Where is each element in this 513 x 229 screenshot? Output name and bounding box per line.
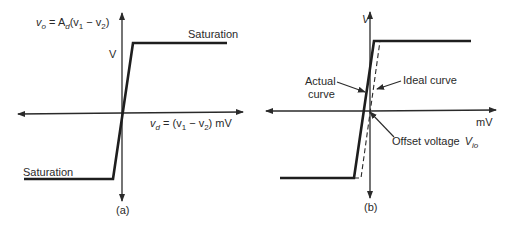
caption-b: (b) [364, 201, 377, 213]
diagram-canvas: vo = Ad(v1 − v2) Saturation V vd = (v1 −… [0, 0, 513, 229]
lower-saturation-label: Saturation [23, 166, 73, 178]
y-unit-label-a: V [109, 48, 117, 60]
x-axis-label-a: vd = (v1 − v2) mV [150, 117, 232, 132]
x-axis-a [122, 112, 243, 113]
x-axis-b [370, 110, 496, 111]
actual-curve-pointer [337, 82, 365, 92]
caption-a: (a) [116, 204, 129, 216]
panel-b: V mV Actual curve Ideal curve Offset vol… [266, 12, 496, 213]
output-equation-label: vo = Ad(v1 − v2) [36, 16, 109, 31]
ideal-curve-label: Ideal curve [403, 74, 457, 86]
transfer-curve-a [24, 43, 227, 179]
offset-voltage-label: Offset voltageVio [392, 135, 479, 150]
actual-curve-label-line2: curve [308, 88, 335, 100]
offset-voltage-pointer [370, 112, 394, 137]
actual-curve [280, 41, 471, 178]
panel-a: vo = Ad(v1 − v2) Saturation V vd = (v1 −… [18, 13, 243, 216]
actual-curve-label-line1: Actual [305, 75, 336, 87]
ideal-curve-pointer [377, 81, 401, 89]
upper-saturation-label: Saturation [188, 28, 238, 40]
x-unit-label-b: mV [476, 116, 493, 128]
x-axis-a-left [18, 113, 122, 114]
